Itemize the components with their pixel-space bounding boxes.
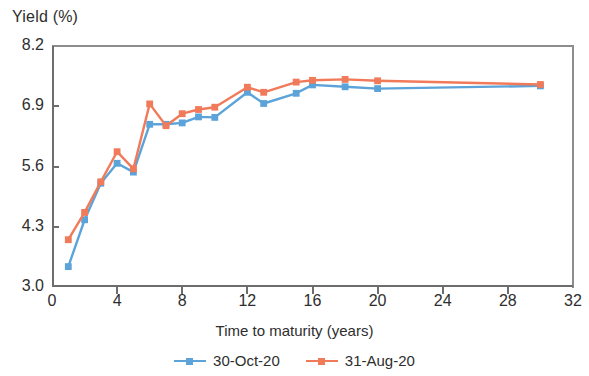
x-axis-tick-mark (442, 287, 444, 294)
x-axis-tick-mark (377, 287, 379, 294)
y-axis-tick-label: 4.3 (2, 217, 44, 235)
y-axis-tick-label: 5.6 (2, 157, 44, 175)
x-axis-tick-label: 8 (162, 292, 202, 310)
x-axis-tick-mark (312, 287, 314, 294)
legend-label: 31-Aug-20 (345, 352, 415, 369)
x-axis-tick-mark (181, 287, 183, 294)
x-axis-tick-label: 12 (227, 292, 267, 310)
y-axis-tick-mark (52, 226, 59, 228)
y-axis-tick-label: 6.9 (2, 96, 44, 114)
chart-legend: 30-Oct-20 31-Aug-20 (0, 352, 589, 369)
y-axis-tick-label: 8.2 (2, 36, 44, 54)
legend-line-marker-icon (306, 356, 338, 366)
y-axis-tick-mark (52, 166, 59, 168)
x-axis-tick-label: 20 (358, 292, 398, 310)
x-axis-tick-label: 16 (293, 292, 333, 310)
legend-line-marker-icon (174, 356, 206, 366)
x-axis-tick-label: 24 (423, 292, 463, 310)
x-axis-title: Time to maturity (years) (0, 322, 589, 339)
yield-curve-chart: Yield (%) 3.04.35.66.98.2 04812162024283… (0, 0, 589, 376)
legend-label: 30-Oct-20 (213, 352, 280, 369)
legend-item-30-oct-20[interactable]: 30-Oct-20 (174, 352, 280, 369)
y-axis-tick-mark (52, 105, 59, 107)
x-axis-tick-label: 0 (32, 292, 72, 310)
x-axis-tick-label: 4 (97, 292, 137, 310)
y-axis-title: Yield (%) (12, 8, 78, 26)
x-axis-tick-mark (246, 287, 248, 294)
x-axis-tick-label: 32 (553, 292, 589, 310)
x-axis-tick-label: 28 (488, 292, 528, 310)
x-axis-tick-mark (507, 287, 509, 294)
x-axis-tick-mark (116, 287, 118, 294)
plot-area (52, 46, 573, 287)
legend-item-31-aug-20[interactable]: 31-Aug-20 (306, 352, 415, 369)
